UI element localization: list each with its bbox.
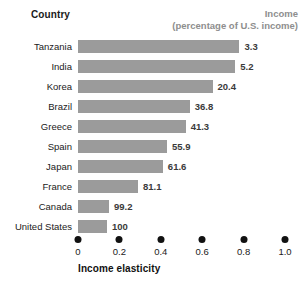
table-row: Brazil36.8 [0,98,308,118]
bar [78,200,109,213]
x-axis: Income elasticity 00.20.40.60.81.0 [0,236,308,281]
bar-value-label: 99.2 [114,201,133,212]
x-tick-dot [282,236,289,243]
income-elasticity-chart: Country Income (percentage of U.S. incom… [0,0,308,281]
x-tick-dot [199,236,206,243]
bar-value-label: 20.4 [218,81,237,92]
x-tick-dot [75,236,82,243]
bar [78,40,239,53]
country-label: India [0,61,72,72]
bar [78,140,167,153]
table-row: Japan61.6 [0,158,308,178]
country-label: France [0,181,72,192]
country-label: Greece [0,121,72,132]
column-header-country: Country [31,9,70,20]
bar-value-label: 3.3 [244,41,257,52]
bar-value-label: 55.9 [172,141,191,152]
country-label: Canada [0,201,72,212]
bar-value-label: 41.3 [191,121,210,132]
x-tick-dot [157,236,164,243]
x-tick-label: 0.4 [154,246,167,257]
bar [78,120,186,133]
x-tick-label: 1.0 [278,246,291,257]
bar [78,100,190,113]
x-tick-dot [240,236,247,243]
x-tick-label: 0.2 [113,246,126,257]
country-label: Tanzania [0,41,72,52]
table-row: Canada99.2 [0,198,308,218]
x-axis-title: Income elasticity [78,263,160,274]
bar-value-label: 61.6 [168,161,187,172]
table-row: Korea20.4 [0,78,308,98]
bar-value-label: 100 [112,221,128,232]
table-row: United States100 [0,218,308,238]
bar-value-label: 36.8 [195,101,214,112]
country-label: Korea [0,81,72,92]
plot-area: Tanzania3.3India5.2Korea20.4Brazil36.8Gr… [0,38,308,240]
table-row: Greece41.3 [0,118,308,138]
bar [78,180,138,193]
bar [78,160,163,173]
x-tick-label: 0.8 [237,246,250,257]
table-row: Tanzania3.3 [0,38,308,58]
table-row: France81.1 [0,178,308,198]
country-label: United States [0,221,72,232]
x-tick-label: 0.6 [196,246,209,257]
bar-value-label: 5.2 [240,61,253,72]
bar [78,80,213,93]
column-header-income: Income [265,8,298,19]
bar [78,220,107,233]
country-label: Brazil [0,101,72,112]
column-header-income-sublabel: (percentage of U.S. income) [172,20,298,31]
bar-value-label: 81.1 [143,181,162,192]
bar [78,60,235,73]
x-tick-label: 0 [75,246,80,257]
table-row: India5.2 [0,58,308,78]
x-tick-dot [116,236,123,243]
country-label: Japan [0,161,72,172]
country-label: Spain [0,141,72,152]
table-row: Spain55.9 [0,138,308,158]
